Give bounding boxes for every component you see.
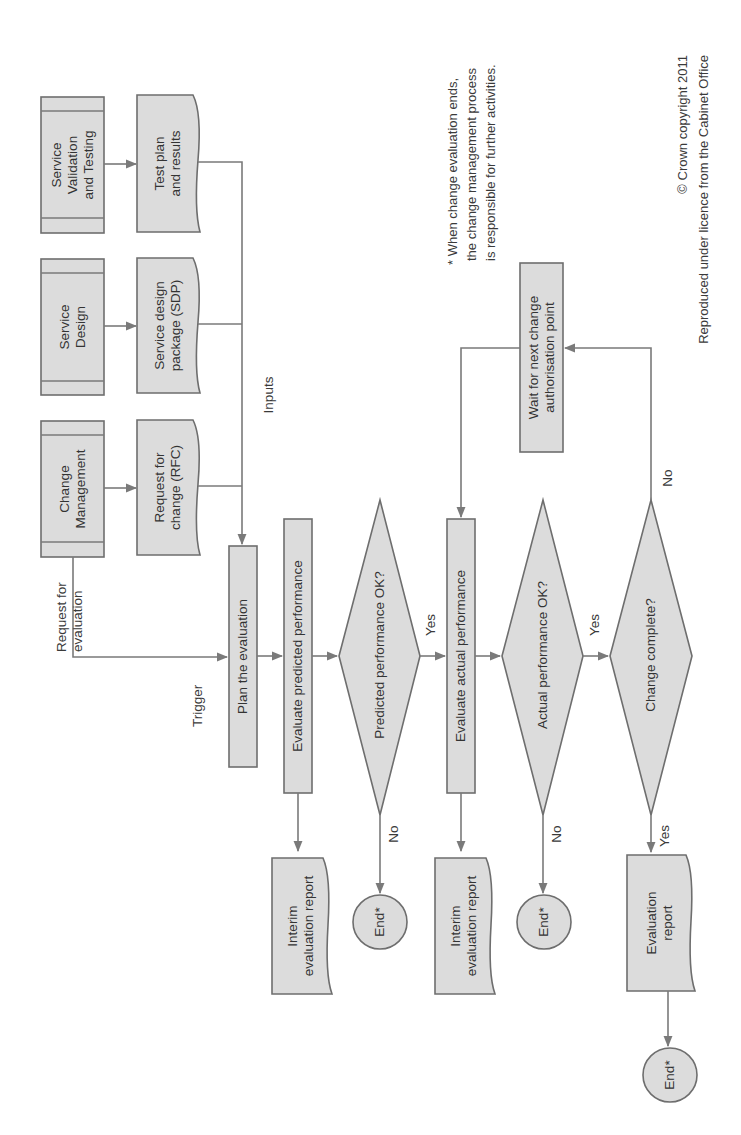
- source-cm-label: Change Management: [44, 421, 102, 557]
- process-plan-label: Plan the evaluation: [229, 546, 257, 767]
- process-wait-label: Wait for next change authorisation point: [520, 263, 563, 452]
- end-3-label: End*: [643, 1048, 697, 1102]
- edge-yes-2: Yes: [587, 610, 603, 640]
- edge-no-3: No: [660, 466, 676, 490]
- footnote: * When change evaluation ends, the chang…: [443, 25, 503, 265]
- copyright: © Crown copyright 2011 Reproduced under …: [672, 55, 716, 400]
- source-sd-label: Service Design: [44, 259, 102, 395]
- source-svt-label: Service Validation and Testing: [44, 97, 102, 233]
- doc-rfc-label: Request for change (RFC): [140, 420, 196, 555]
- doc-evaluation-report-label: Evaluation report: [629, 855, 691, 991]
- inputs-label: Inputs: [261, 365, 277, 425]
- edge-yes-3: Yes: [657, 821, 673, 851]
- doc-test-plan-label: Test plan and results: [140, 95, 196, 232]
- decision-predicted-ok-label: Predicted performance OK?: [339, 530, 420, 780]
- doc-sdp-label: Service design package (SDP): [140, 258, 196, 393]
- decision-actual-ok-label: Actual performance OK?: [502, 530, 583, 780]
- request-for-evaluation-label: Request for evaluation: [54, 562, 88, 652]
- end-1-label: End*: [353, 895, 407, 949]
- end-2-label: End*: [517, 895, 571, 949]
- process-eval-predicted-label: Evaluate predicted performance: [284, 519, 312, 793]
- doc-interim-1-label: Interim evaluation report: [274, 858, 328, 994]
- decision-change-complete-label: Change complete?: [610, 530, 692, 780]
- trigger-label: Trigger: [190, 667, 206, 727]
- doc-interim-2-label: Interim evaluation report: [437, 858, 491, 994]
- edge-no-2: No: [549, 822, 565, 846]
- process-eval-actual-label: Evaluate actual performance: [447, 519, 475, 793]
- edge-no-1: No: [386, 822, 402, 846]
- edge-yes-1: Yes: [423, 610, 439, 640]
